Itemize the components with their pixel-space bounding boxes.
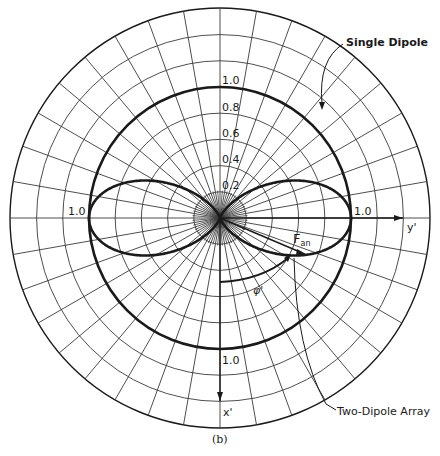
- label-f-an-sub: an: [300, 239, 310, 248]
- tick-1.0-left: 1.0: [68, 206, 86, 217]
- single-dipole-leader: [321, 44, 343, 104]
- tick-0.2: 0.2: [222, 180, 240, 191]
- figure-caption: (b): [212, 434, 228, 445]
- label-x-prime: x': [223, 407, 233, 418]
- label-phi-prime: φ': [253, 285, 263, 296]
- f-an-arrow-icon: [296, 249, 306, 255]
- y-prime-arrow-icon: [394, 215, 403, 221]
- label-f-an: Fan: [293, 232, 310, 245]
- tick-1.0-bottom: 1.0: [222, 355, 240, 366]
- x-prime-arrow-icon: [217, 392, 223, 401]
- two-dipole-leader: [294, 258, 336, 410]
- label-two-dipole-array: Two-Dipole Array: [337, 406, 430, 417]
- tick-1.0-top: 1.0: [222, 75, 240, 86]
- tick-0.8: 0.8: [222, 102, 240, 113]
- single-dipole-leader-arrow-icon: [319, 102, 325, 110]
- polar-plot: [0, 0, 440, 456]
- tick-0.4: 0.4: [222, 154, 240, 165]
- tick-1.0-right: 1.0: [354, 206, 372, 217]
- label-single-dipole: Single Dipole: [346, 37, 428, 48]
- tick-0.6: 0.6: [222, 128, 240, 139]
- label-y-prime: y': [407, 222, 417, 233]
